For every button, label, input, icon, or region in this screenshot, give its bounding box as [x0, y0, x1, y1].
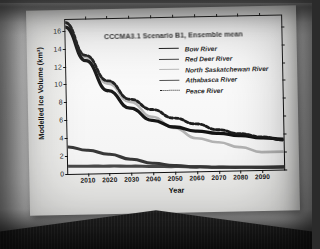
legend-label: Bow River: [185, 45, 217, 53]
y-axis-label-container: Modelled Ice Volume (km³): [35, 10, 50, 175]
chart-legend: Bow RiverRed Deer RiverNorth Saskatchewa…: [159, 42, 269, 97]
y-tick-mark-right: [282, 80, 285, 81]
y-tick-label: 6: [59, 117, 63, 124]
x-axis-label: Year: [68, 184, 286, 197]
projected-slide: Modelled Ice Volume (km³) 0246810121416 …: [26, 5, 300, 215]
y-tick-label: 10: [54, 81, 62, 88]
x-tick-mark-top: [216, 14, 217, 17]
y-tick-label: 14: [53, 45, 61, 52]
x-tick-label: 2070: [211, 174, 226, 181]
x-tick-mark-top: [237, 13, 238, 16]
legend-item[interactable]: Peace River: [160, 84, 269, 97]
x-tick-mark-top: [259, 13, 260, 16]
y-tick-mark-right: [282, 44, 285, 45]
y-tick-label: 12: [54, 63, 62, 70]
y-tick-label: 8: [59, 99, 63, 106]
y-tick-mark: [62, 31, 65, 32]
x-tick-label: 2090: [255, 173, 270, 180]
legend-label: Athabasca River: [185, 76, 237, 84]
y-tick-label: 2: [60, 153, 64, 160]
x-tick-mark-top: [194, 14, 195, 17]
y-tick-mark-right: [283, 98, 286, 99]
y-tick-label: 4: [59, 135, 63, 142]
x-tick-mark-top: [85, 17, 86, 20]
x-tick-label: 2060: [189, 174, 204, 181]
y-axis-label: Modelled Ice Volume (km³): [35, 47, 46, 140]
y-tick-mark-right: [283, 116, 286, 117]
x-tick-mark: [88, 174, 89, 177]
x-tick-mark: [153, 172, 154, 175]
legend-label: North Saskatchewan River: [185, 65, 268, 74]
x-tick-mark-top: [107, 16, 108, 19]
y-tick-mark: [63, 49, 66, 50]
y-tick-mark-right: [283, 134, 286, 135]
y-tick-mark: [65, 156, 68, 157]
y-tick-mark: [65, 174, 68, 175]
x-tick-mark-top: [128, 16, 129, 19]
x-tick-mark: [132, 173, 133, 176]
x-tick-label: 2020: [102, 176, 117, 183]
y-tick-mark: [63, 84, 66, 85]
x-tick-label: 2040: [146, 175, 161, 182]
x-tick-mark: [262, 170, 263, 173]
y-tick-mark-right: [281, 26, 284, 27]
y-tick-mark: [63, 66, 66, 67]
x-tick-mark-top: [172, 15, 173, 18]
y-tick-label: 0: [60, 170, 64, 177]
x-tick-mark: [175, 172, 176, 175]
x-tick-label: 2080: [233, 173, 248, 180]
x-tick-label: 2030: [124, 175, 139, 182]
y-tick-mark: [64, 102, 67, 103]
y-tick-mark-right: [282, 62, 285, 63]
x-tick-label: 2050: [168, 175, 183, 182]
x-tick-mark: [241, 170, 242, 173]
chart-figure: Modelled Ice Volume (km³) 0246810121416 …: [26, 5, 300, 215]
x-tick-mark: [197, 171, 198, 174]
y-tick-label: 16: [53, 27, 61, 34]
x-tick-label: 2010: [80, 176, 95, 183]
x-tick-mark: [110, 173, 111, 176]
legend-label: Red Deer River: [185, 55, 232, 63]
x-tick-mark-top: [150, 15, 151, 18]
y-tick-mark-right: [284, 152, 287, 153]
x-tick-mark: [219, 171, 220, 174]
y-tick-mark: [65, 138, 68, 139]
y-tick-mark: [64, 120, 67, 121]
legend-label: Peace River: [186, 87, 224, 95]
y-tick-mark-right: [284, 170, 287, 171]
